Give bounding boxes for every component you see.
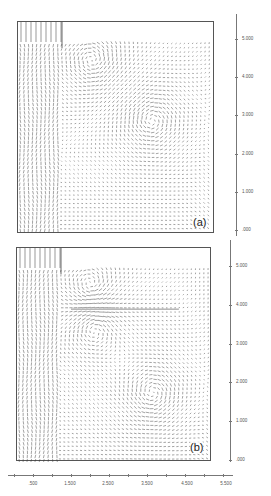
x-axis (8, 475, 233, 476)
panel-a: (a) (17, 21, 214, 233)
y-tick-label: 1.000 (236, 418, 247, 423)
y-tick-label: 4.000 (242, 74, 253, 79)
x-tick-mark (185, 474, 186, 477)
vector-field-b (17, 248, 212, 462)
x-tick-mark (223, 474, 224, 477)
x-tick-label: .500 (29, 481, 38, 486)
x-tick-mark (90, 474, 91, 477)
y-tick-mark (235, 77, 238, 78)
y-tick-label: 3.000 (236, 341, 247, 346)
x-tick-label: 5.500 (220, 481, 231, 486)
x-tick-mark (14, 474, 15, 477)
x-tick-mark (52, 474, 53, 477)
y-tick-label: .000 (242, 227, 251, 232)
x-tick-label: 2.500 (102, 481, 113, 486)
y-tick-label: 5.000 (236, 263, 247, 268)
panel-label-a: (a) (193, 216, 206, 228)
y-tick-label: 2.000 (236, 379, 247, 384)
y-tick-label: 5.000 (242, 36, 253, 41)
y-axis-a (236, 14, 237, 236)
x-tick-label: 3.500 (141, 481, 152, 486)
x-tick-mark (109, 474, 110, 477)
x-tick-mark (128, 474, 129, 477)
x-tick-mark (204, 474, 205, 477)
y-tick-mark (229, 382, 232, 383)
y-tick-mark (229, 344, 232, 345)
x-tick-mark (147, 474, 148, 477)
y-tick-mark (235, 115, 238, 116)
x-tick-label: 4.500 (181, 481, 192, 486)
y-tick-mark (235, 154, 238, 155)
x-tick-label: 1.500 (64, 481, 75, 486)
x-tick-mark (166, 474, 167, 477)
y-tick-label: 3.000 (242, 112, 253, 117)
x-tick-mark (33, 474, 34, 477)
vector-field-a (18, 22, 215, 234)
y-tick-mark (235, 39, 238, 40)
y-tick-mark (229, 266, 232, 267)
y-tick-mark (229, 421, 232, 422)
y-tick-label: 4.000 (236, 302, 247, 307)
panel-label-b: (b) (190, 441, 203, 453)
y-axis-b (230, 240, 231, 462)
y-tick-mark (229, 305, 232, 306)
y-tick-label: 1.000 (242, 189, 253, 194)
y-tick-mark (229, 460, 232, 461)
y-tick-label: .000 (236, 457, 245, 462)
y-tick-mark (235, 230, 238, 231)
panel-b: (b) (16, 247, 211, 461)
y-tick-mark (235, 192, 238, 193)
x-tick-mark (71, 474, 72, 477)
y-tick-label: 2.000 (242, 151, 253, 156)
